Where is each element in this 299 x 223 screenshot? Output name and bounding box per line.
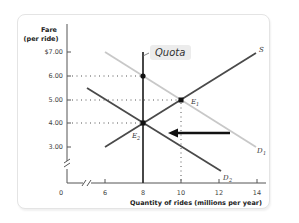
x-tick-0: 0	[59, 189, 63, 197]
x-tick-12: 12	[215, 189, 223, 197]
point-e2	[141, 121, 146, 126]
quota-label: Quota	[155, 47, 185, 58]
x-tick-8: 8	[141, 189, 145, 197]
e2-label: E 2	[131, 132, 140, 141]
y-axis-title-line2: (per ride)	[24, 35, 59, 43]
y-tick-4: 4.00	[49, 119, 63, 127]
svg-text:1: 1	[263, 150, 266, 156]
chart-svg: Fare (per ride) $7.00 6.00 5.00 4.00 3.0…	[0, 0, 299, 223]
svg-text:D: D	[222, 174, 229, 182]
y-tick-6: 6.00	[49, 72, 63, 80]
x-tick-10: 10	[177, 189, 185, 197]
point-quota-price	[140, 73, 145, 78]
x-axis-title: Quantity of rides (millions per year)	[130, 199, 262, 207]
svg-text:D: D	[256, 147, 263, 155]
x-tick-14: 14	[253, 189, 261, 197]
d1-label: D 1	[256, 147, 266, 156]
y-tick-7: $7.00	[44, 48, 63, 56]
point-e1	[179, 98, 184, 103]
y-tick-5: 5.00	[49, 96, 63, 104]
e1-label: E 1	[190, 98, 199, 107]
x-axis	[67, 180, 266, 186]
d2-label: D 2	[222, 174, 232, 183]
y-ticks	[67, 52, 71, 147]
y-axis	[64, 24, 70, 183]
svg-text:2: 2	[136, 135, 140, 141]
y-tick-3: 3.00	[49, 143, 63, 151]
reference-lines	[72, 76, 181, 182]
y-axis-title-line1: Fare	[41, 26, 58, 34]
svg-text:2: 2	[228, 177, 232, 183]
svg-text:1: 1	[196, 101, 199, 107]
supply-label: S	[259, 46, 264, 54]
shift-arrow	[168, 129, 230, 138]
x-tick-6: 6	[103, 189, 107, 197]
